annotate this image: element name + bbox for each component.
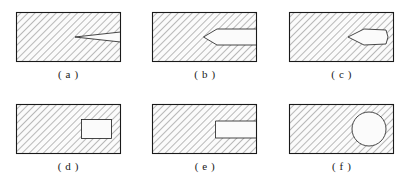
panel-caption-d: ( d ) xyxy=(58,160,79,172)
panel-a: ( a ) xyxy=(0,0,137,92)
panel-b: ( b ) xyxy=(137,0,274,92)
panel-c: ( c ) xyxy=(273,0,410,92)
panel-caption-f: ( f ) xyxy=(332,160,352,172)
panel-e: ( e ) xyxy=(137,92,274,184)
panel-caption-c: ( c ) xyxy=(331,68,352,80)
figure-root: ( a ) ( b ) xyxy=(0,0,410,183)
diagram-c-internal-lens-void xyxy=(288,11,395,63)
diagram-b-keyhole-slot xyxy=(151,11,258,63)
diagram-a-thin-v-notch xyxy=(15,11,122,63)
panel-f: ( f ) xyxy=(273,92,410,184)
diagram-d-internal-rect-hole xyxy=(15,103,122,155)
panel-caption-e: ( e ) xyxy=(195,160,216,172)
panel-grid: ( a ) ( b ) xyxy=(0,0,410,183)
panel-d: ( d ) xyxy=(0,92,137,184)
diagram-e-open-rect-slot xyxy=(151,103,258,155)
diagram-f-internal-circular-hole xyxy=(288,103,395,155)
panel-caption-a: ( a ) xyxy=(58,68,79,80)
panel-caption-b: ( b ) xyxy=(194,68,215,80)
